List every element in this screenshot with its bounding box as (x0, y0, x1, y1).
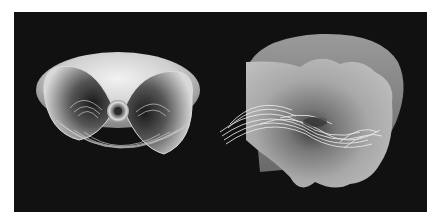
left-rendering (14, 12, 220, 212)
right-rendering (220, 12, 427, 212)
irregular-surface-image (220, 12, 427, 212)
torus-surface-image (14, 12, 220, 212)
figure-panel (14, 12, 427, 212)
